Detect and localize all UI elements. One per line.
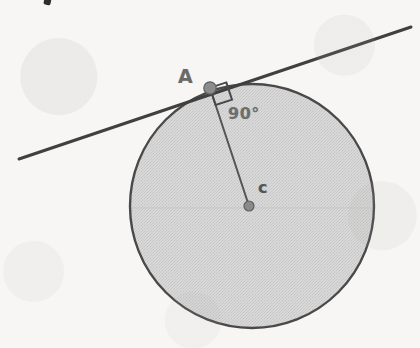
label-point-c: c — [258, 180, 267, 196]
label-right-angle: 90° — [228, 106, 260, 122]
diagram-canvas — [0, 0, 420, 348]
point-c-dot — [244, 201, 254, 211]
tangent-circle-diagram: A c 90° — [0, 0, 420, 348]
label-point-a: A — [178, 67, 193, 86]
point-a-dot — [204, 82, 216, 94]
